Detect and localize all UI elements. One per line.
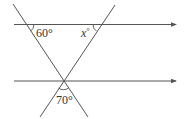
left-transversal-line — [13, 4, 88, 117]
angle-arc-x — [93, 25, 97, 32]
angle-label-x: x° — [80, 26, 90, 40]
angle-arc-70 — [59, 88, 69, 90]
geometry-diagram: 60° x° 70° — [0, 0, 190, 119]
angle-label-60: 60° — [36, 26, 53, 40]
angle-degree-symbol: ° — [86, 26, 90, 36]
angle-label-70: 70° — [56, 93, 73, 107]
